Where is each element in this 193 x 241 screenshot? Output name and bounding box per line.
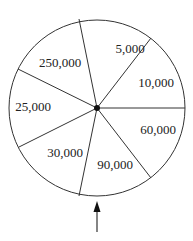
pointer-arrow-icon (94, 201, 101, 232)
segment-label: 10,000 (138, 75, 174, 90)
segment-label: 250,000 (39, 55, 81, 70)
wheel-hub (94, 105, 100, 111)
prize-wheel-diagram: 5,000 10,000 60,000 90,000 30,000 25,000… (0, 0, 193, 241)
segment-label: 90,000 (97, 157, 133, 172)
segment-label: 60,000 (140, 122, 176, 137)
segment-label: 5,000 (115, 41, 144, 56)
segment-label: 25,000 (15, 99, 51, 114)
segment-label: 30,000 (47, 145, 83, 160)
